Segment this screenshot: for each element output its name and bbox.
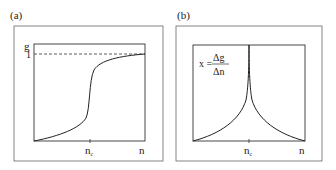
panel-b: (b) x = Δg Δn nc n xyxy=(176,9,322,161)
formula-numerator: Δg xyxy=(213,52,224,63)
formula-lhs: x = xyxy=(199,58,213,69)
x-tick-nc-b: nc xyxy=(244,144,253,157)
cusp-curve-right xyxy=(249,45,305,141)
panel-b-label: (b) xyxy=(177,9,190,22)
x-axis-label-n: n xyxy=(139,144,145,156)
panel-a: (a) g 1 nc n xyxy=(10,9,163,161)
x-tick-nc: nc xyxy=(85,144,94,157)
figure: (a) g 1 nc n (b) x = Δg Δn nc n xyxy=(0,0,336,170)
sigmoid-curve xyxy=(34,54,145,141)
y-tick-1: 1 xyxy=(26,49,31,60)
formula-denominator: Δn xyxy=(213,66,224,77)
x-axis-label-n-b: n xyxy=(299,144,305,156)
panel-a-label: (a) xyxy=(10,9,23,22)
